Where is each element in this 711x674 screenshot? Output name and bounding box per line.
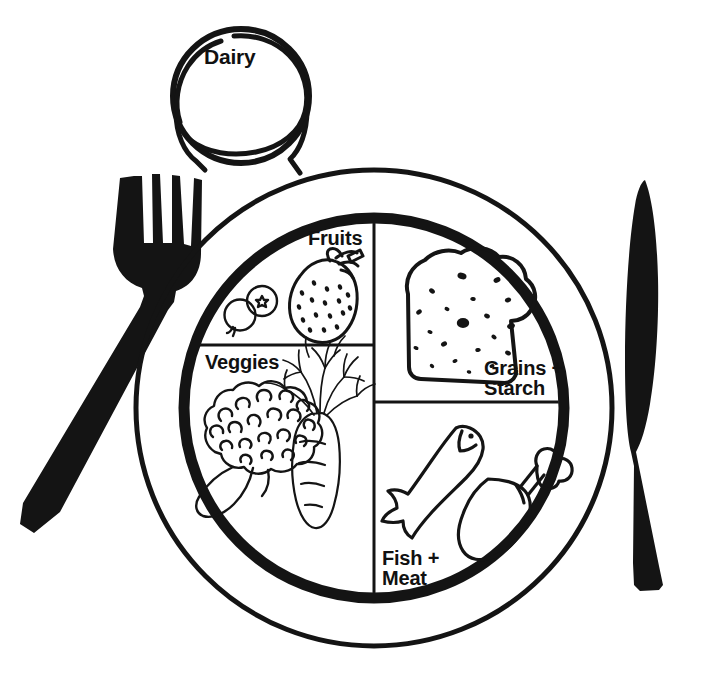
- carrot-icon: [266, 336, 375, 528]
- knife-icon: [625, 180, 663, 591]
- blueberries-icon: [225, 286, 278, 336]
- label-dairy: Dairy: [204, 46, 256, 67]
- label-fruits: Fruits: [308, 228, 362, 248]
- healthy-plate-diagram: Dairy Fruits Veggies Grains + Starch Fis…: [0, 0, 711, 674]
- label-fish-meat: Fish + Meat: [382, 548, 439, 589]
- fish-icon: [382, 427, 483, 539]
- strawberry-icon: [289, 248, 363, 342]
- label-grains-starch: Grains + Starch: [484, 358, 563, 399]
- place-setting-illustration: [0, 0, 711, 674]
- label-veggies: Veggies: [205, 352, 279, 372]
- fork-icon: [20, 174, 202, 533]
